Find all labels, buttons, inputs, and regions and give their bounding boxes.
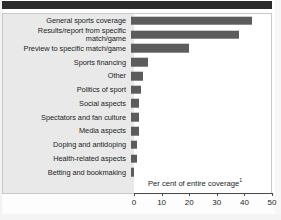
bar-cell xyxy=(131,152,281,166)
header-rule xyxy=(2,1,272,9)
bar-rows: General sports coverageResults/report fr… xyxy=(0,14,281,193)
bar-cell xyxy=(131,83,281,97)
bar-row: Politics of sport xyxy=(0,83,281,97)
bar-row-label: Preview to specific match/game xyxy=(0,45,131,52)
bar xyxy=(131,17,252,26)
bar xyxy=(131,140,137,149)
x-axis-tick-label: 30 xyxy=(212,198,221,207)
x-axis-tick xyxy=(217,193,218,196)
x-axis-tick-label: 50 xyxy=(268,198,277,207)
bar-row: Sports financing xyxy=(0,55,281,69)
bar xyxy=(131,58,148,67)
bar-cell xyxy=(131,97,281,111)
bar xyxy=(131,44,189,53)
bar-cell xyxy=(131,69,281,83)
x-axis-line xyxy=(134,193,272,194)
axis-note: Per cent of entire coverage1 xyxy=(148,177,242,188)
x-axis-tick-label: 40 xyxy=(240,198,249,207)
bar-row: Other xyxy=(0,69,281,83)
bar-cell xyxy=(131,138,281,152)
bar-row-label: Doping and antidoping xyxy=(0,141,131,148)
bar xyxy=(131,85,141,94)
bar-row-label: Sports financing xyxy=(0,59,131,66)
bar-row: Doping and antidoping xyxy=(0,138,281,152)
bar-cell xyxy=(131,42,281,56)
bar-row-label: Media aspects xyxy=(0,127,131,134)
bar-row-label: General sports coverage xyxy=(0,17,131,24)
axis-note-text: Per cent of entire coverage xyxy=(148,179,239,188)
bar xyxy=(131,99,139,108)
bar xyxy=(131,168,134,177)
x-axis-tick xyxy=(189,193,190,196)
bar-row: Media aspects xyxy=(0,124,281,138)
bar xyxy=(131,113,139,122)
bar xyxy=(131,154,137,163)
bar-chart-figure: General sports coverageResults/report fr… xyxy=(0,0,281,220)
x-axis-tick-label: 10 xyxy=(157,198,166,207)
bar-row: Social aspects xyxy=(0,97,281,111)
bar-cell xyxy=(131,124,281,138)
bar-row: Health-related aspects xyxy=(0,152,281,166)
bar-row: Spectators and fan culture xyxy=(0,110,281,124)
bar xyxy=(131,30,239,39)
x-axis-tick-label: 0 xyxy=(132,198,136,207)
bar-row-label: Betting and bookmaking xyxy=(0,169,131,176)
bar-cell xyxy=(131,55,281,69)
x-axis-tick xyxy=(244,193,245,196)
bar-row-label: Politics of sport xyxy=(0,86,131,93)
bar-cell xyxy=(131,14,281,28)
bar-row-label: Results/report from specific match/game xyxy=(0,27,131,42)
bar-row-label: Other xyxy=(0,72,131,79)
x-axis-tick-label: 20 xyxy=(185,198,194,207)
bar xyxy=(131,127,139,136)
bar xyxy=(131,72,143,81)
bar-row-label: Spectators and fan culture xyxy=(0,114,131,121)
bar-row: Results/report from specific match/game xyxy=(0,28,281,42)
page-edge-bottom xyxy=(0,214,281,220)
bar-cell xyxy=(131,28,281,42)
bar-row-label: Health-related aspects xyxy=(0,155,131,162)
x-axis-tick xyxy=(272,193,273,196)
bar-cell xyxy=(131,110,281,124)
axis-note-footnote-marker: 1 xyxy=(239,177,242,183)
x-axis-tick xyxy=(134,193,135,196)
x-axis-tick xyxy=(162,193,163,196)
bar-row: Preview to specific match/game xyxy=(0,42,281,56)
bar-row-label: Social aspects xyxy=(0,100,131,107)
